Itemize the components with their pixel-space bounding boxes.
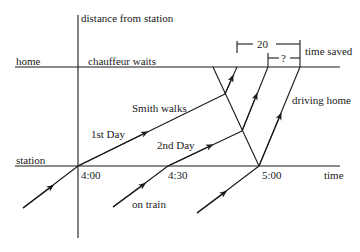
station-label: station [16, 155, 45, 166]
tick-500: 5:00 [262, 170, 282, 181]
chauffeur-waits-label: chauffeur waits [88, 56, 156, 67]
y-axis-label: distance from station [81, 13, 173, 24]
tick-430: 4:30 [168, 170, 188, 181]
bracket-20-label: 20 [257, 39, 268, 50]
diagram-lines [0, 0, 360, 252]
first-day-label: 1st Day [91, 129, 125, 140]
driving-home-label: driving home [292, 95, 351, 106]
on-train-label: on train [132, 199, 166, 210]
time-saved-label: time saved [305, 46, 352, 57]
tick-400: 4:00 [81, 170, 101, 181]
diagram-canvas: distance from station home chauffeur wai… [0, 0, 360, 252]
time-axis-label: time [324, 170, 344, 181]
chauffeur-path [213, 67, 259, 166]
smith-walks-label: Smith walks [132, 103, 187, 114]
home-label: home [16, 56, 40, 67]
second-day-label: 2nd Day [157, 140, 195, 151]
bracket-unknown-label: ? [281, 53, 286, 64]
